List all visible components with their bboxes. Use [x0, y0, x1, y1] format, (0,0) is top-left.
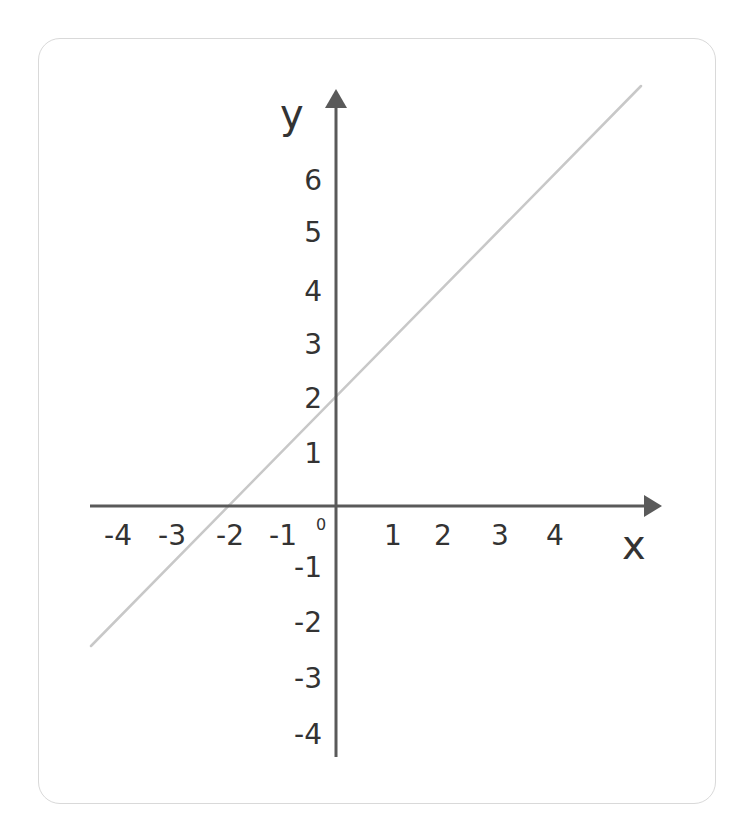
function-line: [91, 86, 641, 646]
y-tick-label: -4: [294, 718, 322, 751]
y-tick-label: 4: [304, 275, 322, 308]
x-tick-label: 4: [546, 519, 564, 552]
origin-label: 0: [316, 515, 326, 534]
y-tick-label: 3: [304, 328, 322, 361]
y-tick-label: 2: [304, 382, 322, 415]
y-tick-label: -2: [294, 606, 322, 639]
x-tick-label: 1: [384, 519, 402, 552]
y-axis-label: y: [280, 91, 304, 137]
x-tick-label: 2: [434, 519, 452, 552]
x-tick-label: 3: [491, 519, 509, 552]
y-tick-label: -1: [294, 551, 322, 584]
y-axis-arrow-icon: [325, 89, 347, 108]
x-tick-label: -3: [158, 519, 186, 552]
x-axis-arrow-icon: [644, 495, 662, 517]
y-tick-label: 5: [304, 216, 322, 249]
coordinate-plane: y x 0 6 5 4 3 2 1 -1 -2 -3 -4 -4 -3 -2 -…: [0, 0, 753, 839]
y-tick-label: 1: [304, 437, 322, 470]
y-tick-label: -3: [294, 662, 322, 695]
x-tick-label: -1: [269, 519, 297, 552]
y-tick-label: 6: [304, 164, 322, 197]
x-tick-label: -2: [216, 519, 244, 552]
x-tick-label: -4: [104, 519, 132, 552]
x-axis-label: x: [622, 522, 646, 568]
